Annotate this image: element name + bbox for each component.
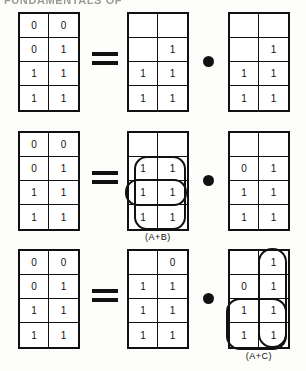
- kmap-cell: 1: [129, 86, 158, 110]
- kmap-cell: 1: [49, 181, 78, 205]
- kmap-cell: 1: [259, 157, 288, 181]
- equation-row-2: 0 0 0 1 1 1 1 1 1 1 1 1 1 1: [0, 131, 306, 241]
- kmap-cell: 1: [129, 157, 158, 181]
- kmap-cell: 1: [230, 299, 259, 323]
- kmap-cell: [129, 38, 158, 62]
- kmap-cell: 1: [129, 62, 158, 86]
- kmap-cell: 0: [20, 133, 49, 157]
- equation-1-operand-map-1: 1 1 1 1 1: [127, 12, 189, 112]
- kmap-cell: 1: [20, 323, 49, 347]
- equation-row-3: 0 0 0 1 1 1 1 1 0 1 1 1 1 1 1: [0, 249, 306, 359]
- kmap-cell: 1: [20, 86, 49, 110]
- equation-3-operand-map-2: 1 0 1 1 1 1 1: [228, 249, 290, 349]
- kmap-cell: 1: [158, 157, 187, 181]
- kmap-cell: 1: [259, 299, 288, 323]
- kmap-cell: 1: [20, 62, 49, 86]
- kmap-cell: 0: [49, 14, 78, 38]
- kmap-cell: 1: [259, 205, 288, 229]
- kmap-cell: [230, 14, 259, 38]
- kmap-cell: [158, 14, 187, 38]
- kmap-cell: 1: [129, 299, 158, 323]
- kmap-cell: [158, 133, 187, 157]
- kmap-cell: 1: [158, 86, 187, 110]
- kmap-cell: 1: [49, 299, 78, 323]
- kmap-cell: 1: [259, 181, 288, 205]
- and-dot-icon: [203, 293, 214, 304]
- kmap-cell: 1: [129, 181, 158, 205]
- kmap-cell: 1: [49, 38, 78, 62]
- equation-1-operand-map-2: 1 1 1 1 1: [228, 12, 290, 112]
- kmap-cell: 1: [49, 205, 78, 229]
- kmap-cell: 0: [49, 251, 78, 275]
- kmap-cell: 1: [158, 62, 187, 86]
- kmap-cell: 1: [230, 323, 259, 347]
- equation-2-operand-map-2: 0 1 1 1 1 1: [228, 131, 290, 231]
- page-canvas: FUNDAMENTALS OF 0 0 0 1 1 1 1 1 1 1: [0, 0, 306, 371]
- kmap-cell: 1: [20, 205, 49, 229]
- kmap-cell: 0: [158, 251, 187, 275]
- grouping-label-a-plus-c: (A+C): [228, 351, 290, 361]
- equals-icon: [92, 52, 118, 69]
- equation-3-result-map: 0 0 0 1 1 1 1 1: [18, 249, 80, 349]
- kmap-cell: 1: [158, 275, 187, 299]
- kmap-cell: 0: [230, 275, 259, 299]
- kmap-cell: 0: [230, 157, 259, 181]
- kmap-cell: 1: [49, 275, 78, 299]
- kmap-cell: 1: [20, 299, 49, 323]
- kmap-cell: 0: [20, 251, 49, 275]
- kmap-cell: [129, 14, 158, 38]
- equals-icon: [92, 289, 118, 306]
- kmap-cell: [230, 38, 259, 62]
- kmap-cell: 1: [158, 38, 187, 62]
- kmap-cell: 0: [20, 38, 49, 62]
- kmap-cell: 1: [49, 62, 78, 86]
- kmap-cell: 1: [129, 275, 158, 299]
- kmap-cell: [129, 133, 158, 157]
- kmap-cell: 0: [20, 14, 49, 38]
- kmap-cell: [230, 251, 259, 275]
- kmap-cell: 1: [49, 86, 78, 110]
- kmap-cell: 1: [49, 323, 78, 347]
- kmap-cell: 1: [230, 181, 259, 205]
- kmap-cell: 0: [49, 133, 78, 157]
- kmap-cell: [230, 133, 259, 157]
- kmap-cell: 1: [158, 299, 187, 323]
- equation-1-result-map: 0 0 0 1 1 1 1 1: [18, 12, 80, 112]
- kmap-cell: 1: [259, 38, 288, 62]
- kmap-cell: [259, 14, 288, 38]
- grouping-label-a-plus-b: (A+B): [127, 232, 189, 242]
- equation-3-operand-map-1: 0 1 1 1 1 1 1: [127, 249, 189, 349]
- equals-icon: [92, 171, 118, 188]
- kmap-cell: 1: [259, 275, 288, 299]
- kmap-cell: 1: [230, 86, 259, 110]
- kmap-cell: 1: [158, 205, 187, 229]
- kmap-cell: [259, 133, 288, 157]
- equation-2-result-map: 0 0 0 1 1 1 1 1: [18, 131, 80, 231]
- equation-2-operand-map-1: 1 1 1 1 1 1: [127, 131, 189, 231]
- kmap-cell: 1: [158, 323, 187, 347]
- kmap-cell: 1: [230, 62, 259, 86]
- kmap-cell: 1: [158, 181, 187, 205]
- equation-row-1: 0 0 0 1 1 1 1 1 1 1 1 1 1: [0, 12, 306, 122]
- kmap-cell: 0: [20, 275, 49, 299]
- page-top-heading: FUNDAMENTALS OF: [4, 0, 122, 6]
- kmap-cell: 1: [230, 205, 259, 229]
- and-dot-icon: [203, 175, 214, 186]
- kmap-cell: [129, 251, 158, 275]
- kmap-cell: 1: [49, 157, 78, 181]
- kmap-cell: 1: [259, 86, 288, 110]
- and-dot-icon: [203, 56, 214, 67]
- kmap-cell: 1: [259, 251, 288, 275]
- kmap-cell: 1: [129, 205, 158, 229]
- kmap-cell: 1: [259, 323, 288, 347]
- kmap-cell: 1: [259, 62, 288, 86]
- kmap-cell: 1: [20, 181, 49, 205]
- kmap-cell: 1: [129, 323, 158, 347]
- kmap-cell: 0: [20, 157, 49, 181]
